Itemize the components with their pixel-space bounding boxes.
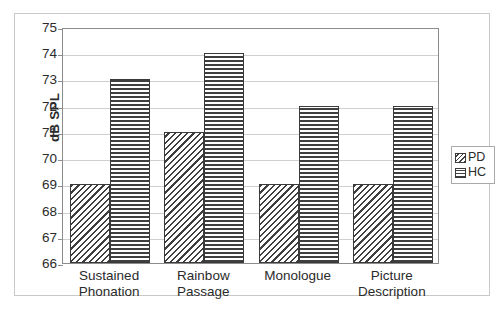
y-axis-tick-label: 66 bbox=[23, 257, 57, 271]
x-axis-label-line: Rainbow bbox=[156, 268, 250, 284]
legend-label-pd: PD bbox=[468, 151, 485, 164]
chart-legend: PD HC bbox=[451, 146, 495, 184]
y-axis-tick-label: 73 bbox=[23, 74, 57, 88]
legend-label-hc: HC bbox=[468, 166, 486, 179]
x-axis-label-line: Passage bbox=[156, 284, 250, 300]
x-axis-label-line: Picture bbox=[345, 268, 439, 284]
x-axis-category-labels: SustainedPhonationRainbowPassageMonologu… bbox=[62, 268, 439, 308]
bar-hc-rainbow-passage[interactable] bbox=[204, 53, 244, 263]
plot-area bbox=[62, 28, 439, 264]
y-axis-tick bbox=[58, 108, 63, 109]
y-axis-tick bbox=[58, 239, 63, 240]
y-axis-tick-label: 68 bbox=[23, 205, 57, 219]
y-axis-tick-label: 72 bbox=[23, 100, 57, 114]
y-axis-tick-label: 75 bbox=[23, 21, 57, 35]
x-axis-label-picture-description: PictureDescription bbox=[345, 268, 439, 300]
y-axis-tick bbox=[58, 186, 63, 187]
y-axis-tick-label: 74 bbox=[23, 47, 57, 61]
bar-pd-rainbow-passage[interactable] bbox=[164, 132, 204, 263]
y-axis-tick bbox=[58, 55, 63, 56]
x-axis-label-line: Sustained bbox=[62, 268, 156, 284]
y-axis-tick-label: 71 bbox=[23, 126, 57, 140]
bar-hc-picture-description[interactable] bbox=[393, 106, 433, 263]
gridline bbox=[63, 55, 438, 56]
x-axis-label-sustained-phonation: SustainedPhonation bbox=[62, 268, 156, 300]
bar-hc-sustained-phonation[interactable] bbox=[110, 79, 150, 263]
chart-figure-frame: dB SPL 75747372717069686766 SustainedPho… bbox=[14, 13, 490, 296]
y-axis-tick-label: 69 bbox=[23, 179, 57, 193]
legend-swatch-hc-icon bbox=[455, 168, 466, 178]
x-axis-label-monologue: Monologue bbox=[251, 268, 345, 284]
x-axis-label-line: Monologue bbox=[251, 268, 345, 284]
y-axis-tick bbox=[58, 160, 63, 161]
bar-pd-sustained-phonation[interactable] bbox=[70, 184, 110, 263]
bar-hc-monologue[interactable] bbox=[299, 106, 339, 263]
legend-item-pd[interactable]: PD bbox=[455, 150, 491, 165]
legend-swatch-pd-icon bbox=[455, 153, 466, 163]
x-axis-label-line: Phonation bbox=[62, 284, 156, 300]
y-axis-tick-label: 70 bbox=[23, 152, 57, 166]
y-axis-tick bbox=[58, 213, 63, 214]
x-axis-label-line: Description bbox=[345, 284, 439, 300]
y-axis-tick bbox=[58, 134, 63, 135]
y-axis-tick-labels: 75747372717069686766 bbox=[15, 28, 57, 264]
y-axis-tick bbox=[58, 265, 63, 266]
bar-pd-monologue[interactable] bbox=[259, 184, 299, 263]
x-axis-label-rainbow-passage: RainbowPassage bbox=[156, 268, 250, 300]
y-axis-tick bbox=[58, 81, 63, 82]
y-axis-tick bbox=[58, 29, 63, 30]
y-axis-tick-label: 67 bbox=[23, 231, 57, 245]
bar-pd-picture-description[interactable] bbox=[353, 184, 393, 263]
legend-item-hc[interactable]: HC bbox=[455, 165, 491, 180]
